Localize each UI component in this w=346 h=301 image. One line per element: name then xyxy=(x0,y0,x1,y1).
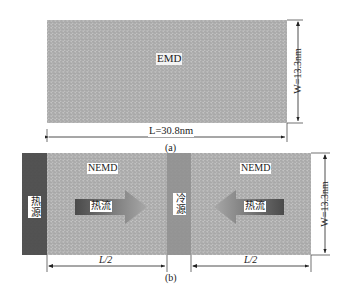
caption-a: (a) xyxy=(165,143,176,153)
nemd-label-left: NEMD xyxy=(87,163,118,174)
nemd-label-right: NEMD xyxy=(240,163,271,174)
length-label: L=30.8nm xyxy=(148,126,194,137)
width-label-a: W=13.3nm xyxy=(293,44,303,98)
half-length-label-right: L/2 xyxy=(244,255,257,265)
heat-flow-label-right: 热流 xyxy=(244,201,266,212)
heat-flow-label-left: 热流 xyxy=(90,201,112,212)
width-label-b: W=13.3nm xyxy=(320,177,330,231)
cold-source-label: 冷源 xyxy=(173,193,186,215)
half-length-label-left: L/2 xyxy=(99,255,112,265)
caption-b: (b) xyxy=(165,273,177,283)
emd-label: EMD xyxy=(156,53,182,65)
emd-lattice xyxy=(47,20,287,123)
hot-source-label: 热源 xyxy=(28,196,41,218)
